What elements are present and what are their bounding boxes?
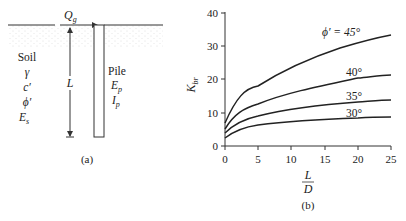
pile-label: Pile [108, 65, 126, 77]
y-tick-20: 20 [207, 73, 219, 85]
soil-cohesion: c′ [23, 81, 31, 93]
y-tick-30: 30 [207, 40, 219, 52]
soil-hatching [8, 25, 163, 47]
y-tick-0: 0 [213, 140, 219, 152]
soil-label: Soil [18, 51, 37, 63]
y-tick-40: 40 [207, 7, 219, 19]
x-axis: 0 5 10 15 20 25 [222, 146, 397, 165]
panel-b: 40 30 20 10 0 Kbr 0 5 10 15 20 25 L D [184, 7, 397, 212]
soil-friction-angle: ϕ′ [23, 96, 32, 109]
svg-text:D: D [303, 182, 313, 196]
panel-a: Qg L Soil γ c′ ϕ′ Es Pile Ep Ip (a) [8, 8, 163, 166]
curve-label-40: 40° [346, 66, 363, 78]
x-tick-0: 0 [222, 153, 228, 165]
x-tick-10: 10 [286, 153, 298, 165]
x-tick-15: 15 [320, 153, 332, 165]
caption-b: (b) [302, 199, 315, 212]
curve-45 [225, 35, 391, 123]
curve-30 [225, 117, 391, 138]
svg-text:L: L [304, 168, 312, 182]
x-axis-label: L D [302, 168, 314, 196]
figure: Qg L Soil γ c′ ϕ′ Es Pile Ep Ip (a) 40 3… [0, 0, 406, 221]
pile-modulus: Ep [110, 79, 122, 94]
arrow-down-icon [67, 131, 73, 137]
soil-modulus: Es [18, 111, 29, 126]
pile-inertia: Ip [111, 94, 120, 109]
length-label: L [66, 76, 74, 90]
caption-a: (a) [81, 153, 94, 166]
curve-label-35: 35° [346, 90, 363, 102]
x-tick-20: 20 [353, 153, 365, 165]
soil-unit-weight: γ [25, 66, 30, 79]
curve-label-30: 30° [346, 107, 363, 119]
curves [225, 35, 391, 138]
curve-label-45: ϕ′ = 45° [322, 26, 360, 39]
load-label: Qg [64, 8, 77, 24]
y-axis: 40 30 20 10 0 [207, 7, 225, 152]
x-tick-25: 25 [386, 153, 398, 165]
curve-35 [225, 100, 391, 133]
y-tick-10: 10 [207, 107, 219, 119]
x-tick-5: 5 [255, 153, 261, 165]
pile [94, 25, 104, 137]
y-axis-label: Kbr [184, 77, 200, 94]
